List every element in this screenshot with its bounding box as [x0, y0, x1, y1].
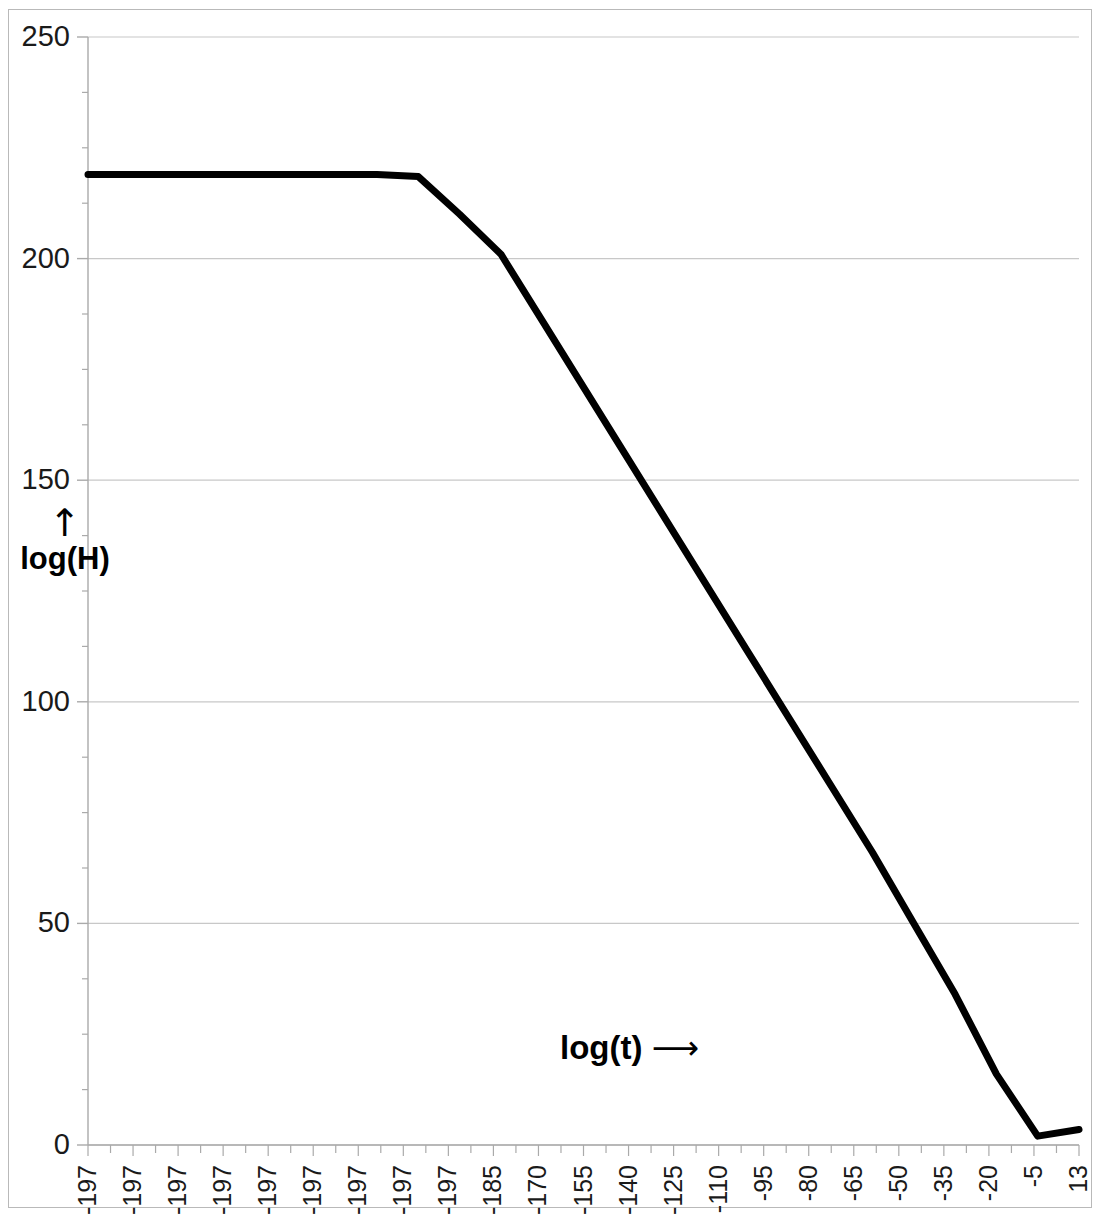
x-tick-label: -140	[616, 1165, 641, 1215]
gridlines-group	[88, 37, 1079, 1145]
x-tick-marks	[88, 1145, 1079, 1156]
x-tick-label: -197	[120, 1165, 145, 1215]
x-tick-label: 13	[1066, 1165, 1091, 1193]
y-tick-marks	[77, 37, 88, 1145]
y-axis-title: ↑ log(H)	[10, 505, 120, 577]
y-tick-label: 0	[0, 1130, 90, 1159]
x-tick-label: -5	[1021, 1165, 1046, 1187]
x-axis-title-text: log(t)	[560, 1029, 652, 1066]
plot-canvas	[0, 0, 1116, 1226]
x-tick-label: -170	[525, 1165, 550, 1215]
y-axis-arrow-icon: ↑	[10, 505, 120, 541]
x-tick-label: -80	[796, 1165, 821, 1201]
x-tick-label: -197	[255, 1165, 280, 1215]
data-series-line	[88, 174, 1079, 1136]
chart-container: 050100150200250 -197-197-197-197-197-197…	[0, 0, 1116, 1226]
x-tick-label: -197	[165, 1165, 190, 1215]
x-tick-label: -197	[210, 1165, 235, 1215]
y-axis-title-text: log(H)	[10, 541, 120, 577]
y-tick-label: 50	[0, 908, 90, 937]
x-tick-label: -65	[841, 1165, 866, 1201]
x-tick-label: -197	[390, 1165, 415, 1215]
x-tick-label: -125	[661, 1165, 686, 1215]
y-tick-label: 100	[0, 687, 90, 716]
x-axis-title: log(t) ⟶	[560, 1028, 699, 1067]
x-tick-label: -95	[751, 1165, 776, 1201]
y-tick-label: 150	[0, 465, 90, 494]
x-tick-label: -50	[886, 1165, 911, 1201]
x-tick-label: -197	[345, 1165, 370, 1215]
y-tick-label: 250	[0, 22, 90, 51]
x-tick-label: -110	[706, 1165, 731, 1213]
x-tick-label: -185	[480, 1165, 505, 1215]
x-tick-label: -35	[931, 1165, 956, 1201]
x-tick-label: -155	[571, 1165, 596, 1215]
y-tick-label: 200	[0, 244, 90, 273]
x-tick-label: -197	[75, 1165, 100, 1215]
x-tick-label: -197	[435, 1165, 460, 1215]
x-tick-label: -20	[976, 1165, 1001, 1201]
axes-group	[88, 37, 1079, 1145]
x-axis-arrow-icon: ⟶	[652, 1028, 699, 1067]
x-tick-label: -197	[300, 1165, 325, 1215]
